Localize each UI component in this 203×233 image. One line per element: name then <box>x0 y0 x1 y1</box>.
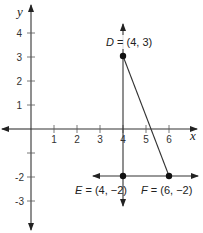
y-tick-1: 1 <box>16 100 22 111</box>
label-e-eq: = <box>82 184 95 196</box>
label-f: F = (6, −2) <box>141 184 192 196</box>
label-d-coords: (4, 3) <box>127 36 153 48</box>
y-tick-4: 4 <box>16 28 22 39</box>
svg-text:E = (4, −2): E = (4, −2) <box>75 184 127 196</box>
label-d-letter: D <box>106 36 114 48</box>
x-tick-5: 5 <box>143 134 149 145</box>
svg-text:D = (4, 3): D = (4, 3) <box>106 36 152 48</box>
label-d-eq: = <box>114 36 127 48</box>
point-d <box>120 53 126 59</box>
x-tick-3: 3 <box>97 134 103 145</box>
label-f-eq: = <box>148 184 161 196</box>
x-tick-1: 1 <box>51 134 57 145</box>
label-e: E = (4, −2) <box>75 184 127 196</box>
x-tick-6: 6 <box>166 134 172 145</box>
y-tick-3: 3 <box>16 52 22 63</box>
x-axis-label: x <box>189 128 196 143</box>
y-tick-neg3: -3 <box>15 196 24 207</box>
y-axis-label: y <box>15 4 23 19</box>
segment-df <box>123 56 169 176</box>
coordinate-plane: 1 2 3 4 5 6 4 3 2 1 -2 -3 y x D <box>0 0 203 233</box>
label-d: D = (4, 3) <box>104 35 156 49</box>
y-tick-2: 2 <box>16 76 22 87</box>
point-f <box>166 173 172 179</box>
label-e-coords: (4, −2) <box>95 184 127 196</box>
point-e <box>120 173 126 179</box>
svg-text:F = (6, −2): F = (6, −2) <box>141 184 192 196</box>
x-tick-2: 2 <box>74 134 80 145</box>
y-tick-neg2: -2 <box>15 172 24 183</box>
y-tick-labels: 4 3 2 1 -2 -3 <box>15 28 24 207</box>
label-f-coords: (6, −2) <box>160 184 192 196</box>
